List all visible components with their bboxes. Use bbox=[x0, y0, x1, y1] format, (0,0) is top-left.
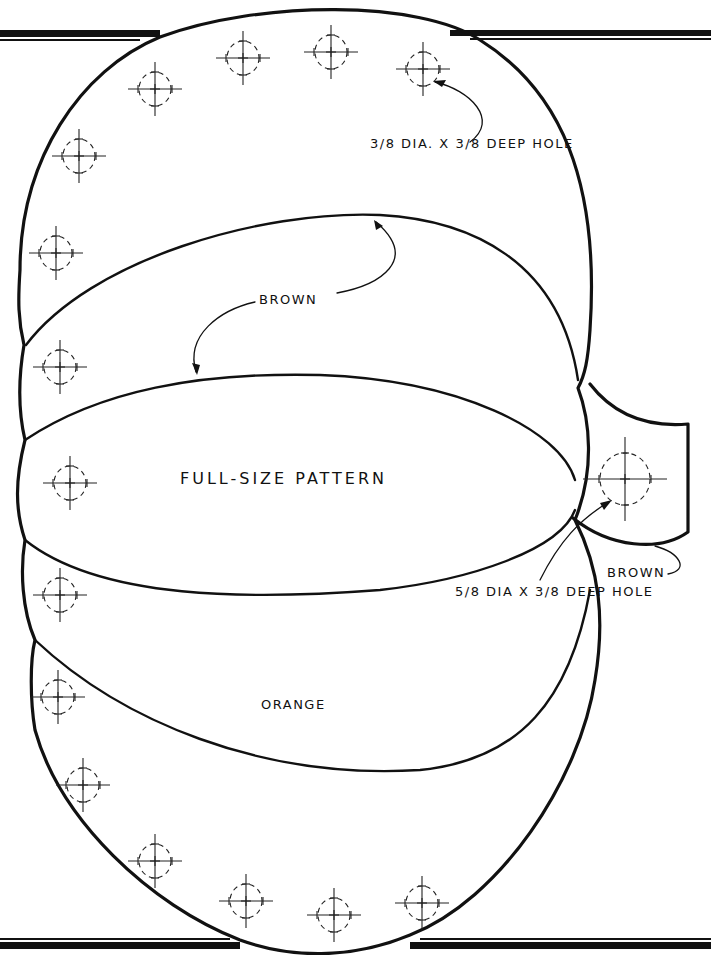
small-hole-note-line1: 3/8 DIA. X bbox=[370, 136, 450, 151]
brown-leader-up bbox=[337, 222, 395, 293]
brown-arrowhead-up bbox=[374, 220, 383, 230]
brown-arrowhead-down bbox=[192, 363, 200, 375]
small-hole-note-line2: 3/8 DEEP HOLE bbox=[455, 136, 573, 151]
hole-marker bbox=[395, 876, 449, 930]
brown-leader-down bbox=[194, 302, 255, 372]
bottom-border-bars bbox=[0, 938, 711, 949]
stem-hole-note-line1: 5/8 DIA X 3/8 bbox=[455, 584, 560, 599]
stem-outline bbox=[573, 384, 688, 544]
hole-marker bbox=[396, 42, 450, 96]
hole-marker bbox=[33, 340, 87, 394]
small-hole-note: 3/8 DIA. X 3/8 DEEP HOLE bbox=[370, 136, 574, 151]
hole-marker bbox=[128, 62, 182, 116]
hole-marker bbox=[52, 129, 106, 183]
full-size-pattern-title: FULL-SIZE PATTERN bbox=[180, 469, 387, 488]
brown-label-top: BROWN bbox=[259, 292, 317, 307]
stem-hole bbox=[583, 437, 667, 521]
hole-marker bbox=[29, 226, 83, 280]
orange-label: ORANGE bbox=[261, 697, 326, 712]
segment-seam-middle-top bbox=[25, 375, 575, 480]
brown-label-stem: BROWN bbox=[607, 565, 665, 580]
stem-hole-arrowhead bbox=[600, 500, 612, 510]
top-border-bars bbox=[0, 30, 711, 41]
stem-hole-note: 5/8 DIA X 3/8 DEEP HOLE bbox=[455, 584, 653, 599]
hole-marker bbox=[307, 888, 361, 942]
hole-marker bbox=[219, 874, 273, 928]
hole-marker bbox=[583, 437, 667, 521]
pumpkin-pattern-drawing: 3/8 DIA. X 3/8 DEEP HOLE BROWN FULL-SIZE… bbox=[0, 0, 711, 955]
hole-marker bbox=[33, 568, 87, 622]
segment-seam-middle-bottom bbox=[25, 510, 575, 595]
small-hole-leader bbox=[435, 82, 482, 142]
hole-marker bbox=[43, 456, 97, 510]
stem-hole-note-line2: DEEP HOLE bbox=[566, 584, 653, 599]
hole-marker bbox=[56, 758, 110, 812]
hole-marker bbox=[304, 25, 358, 79]
hole-marker bbox=[216, 31, 270, 85]
hole-marker bbox=[31, 670, 85, 724]
segment-seam-lower bbox=[35, 590, 590, 771]
hole-marker bbox=[128, 834, 182, 888]
